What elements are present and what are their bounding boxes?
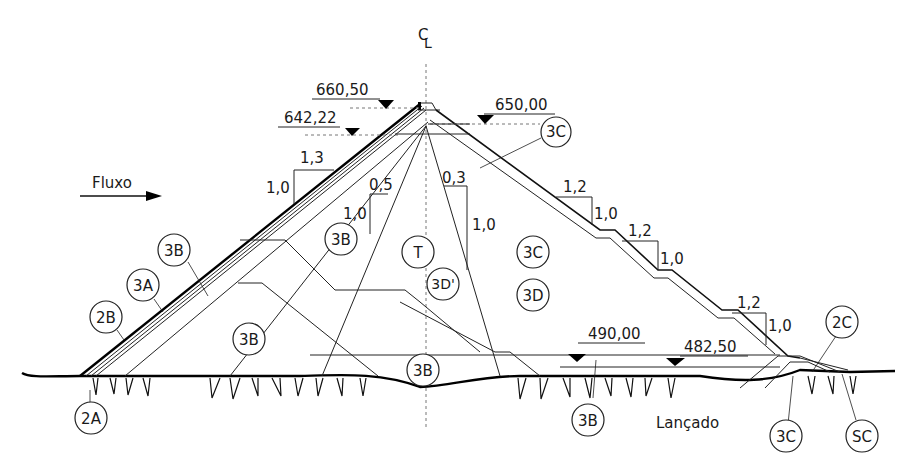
svg-text:3B: 3B: [413, 362, 433, 380]
flow-arrow: Fluxo: [80, 174, 162, 201]
svg-text:1,2: 1,2: [563, 178, 587, 196]
water-level-icon: [477, 115, 494, 124]
zone-3d-prime: 3D': [427, 268, 459, 300]
zone-t: T: [402, 236, 434, 268]
elev-482: 482,50: [684, 338, 737, 356]
foundation-label: Lançado: [656, 414, 719, 432]
svg-text:1,2: 1,2: [628, 222, 652, 240]
centerline-symbol-l: L: [424, 35, 432, 51]
svg-text:3B: 3B: [239, 331, 259, 349]
elev-crest: 660,50: [316, 81, 369, 99]
elev-upstream: 642,22: [284, 109, 337, 127]
svg-text:1,2: 1,2: [737, 294, 761, 312]
zone-3b-lower: 3B: [233, 323, 265, 355]
svg-text:1,0: 1,0: [768, 317, 792, 335]
svg-text:0,3: 0,3: [442, 169, 466, 187]
zone-2a: 2A: [75, 402, 107, 434]
zone-2c: 2C: [826, 306, 858, 338]
zone-3b-upper: 3B: [325, 223, 357, 255]
zone-3c-toe: 3C: [770, 420, 802, 452]
zone-2b: 2B: [90, 301, 122, 333]
zone-3d: 3D: [517, 279, 549, 311]
svg-text:3C: 3C: [523, 244, 543, 262]
elev-downstream-top: 650,00: [495, 96, 548, 114]
zone-3c-mid: 3C: [517, 236, 549, 268]
zone-3b-base: 3B: [407, 354, 439, 386]
svg-text:1,0: 1,0: [472, 216, 496, 234]
elevation-markers: 660,50 642,22 650,00 490,00 482,50: [278, 81, 748, 366]
core-boundaries: [230, 126, 500, 376]
zone-sc: SC: [846, 420, 878, 452]
svg-text:1,0: 1,0: [343, 205, 367, 223]
zone-3a: 3A: [127, 269, 159, 301]
flow-label: Fluxo: [92, 174, 132, 192]
svg-text:3B: 3B: [164, 242, 184, 260]
svg-text:T: T: [412, 244, 423, 262]
svg-text:3B: 3B: [331, 231, 351, 249]
water-level-icon: [568, 354, 586, 362]
ground-line: [22, 370, 895, 387]
arrow-head-icon: [146, 191, 162, 201]
svg-text:3C: 3C: [776, 428, 796, 446]
svg-text:2A: 2A: [81, 410, 102, 428]
svg-text:SC: SC: [852, 428, 872, 446]
svg-text:1,0: 1,0: [660, 250, 684, 268]
svg-text:3B: 3B: [578, 412, 598, 430]
svg-text:3D': 3D': [431, 276, 455, 292]
zone-3b-left: 3B: [158, 234, 190, 266]
svg-text:3D: 3D: [522, 287, 543, 305]
downstream-face: [430, 110, 800, 358]
elev-490: 490,00: [588, 325, 641, 343]
svg-text:1,0: 1,0: [594, 205, 618, 223]
svg-text:3C: 3C: [546, 123, 566, 141]
svg-text:1,0: 1,0: [266, 179, 290, 197]
svg-text:2C: 2C: [832, 314, 852, 332]
svg-text:2B: 2B: [96, 309, 116, 327]
svg-text:1,3: 1,3: [300, 149, 324, 167]
dam-cross-section: C L Fluxo: [0, 0, 912, 473]
svg-text:3A: 3A: [133, 277, 154, 295]
zone-3c-top: 3C: [541, 117, 571, 147]
zone-3b-foundation: 3B: [572, 404, 604, 436]
svg-text:0,5: 0,5: [369, 176, 393, 194]
water-level-icon: [666, 358, 685, 366]
